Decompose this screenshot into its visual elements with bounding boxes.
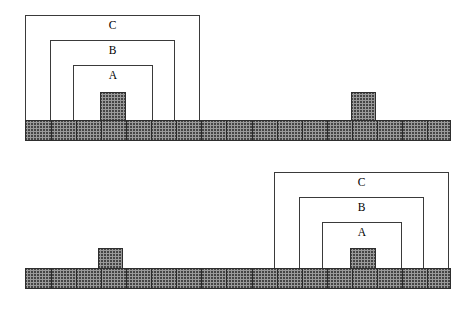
ground-divider <box>226 269 227 288</box>
ground-divider <box>76 269 77 288</box>
ground-divider <box>352 269 353 288</box>
zone-label-b: B <box>299 201 424 213</box>
ground-divider <box>427 269 428 288</box>
ground-strip <box>25 268 451 289</box>
hatched-block-left-block <box>98 248 123 269</box>
nested-zone-diagram: CBACBA <box>0 0 472 313</box>
ground-divider <box>277 269 278 288</box>
ground-divider <box>151 269 152 288</box>
ground-divider <box>51 269 52 288</box>
ground-divider <box>377 269 378 288</box>
ground-divider <box>101 269 102 288</box>
lower-configuration: CBA <box>0 0 472 313</box>
ground-divider <box>327 269 328 288</box>
ground-divider <box>176 269 177 288</box>
hatched-block-center-block <box>350 248 376 269</box>
zone-label-a: A <box>322 226 402 238</box>
ground-divider <box>302 269 303 288</box>
zone-label-c: C <box>274 176 449 188</box>
ground-divider <box>402 269 403 288</box>
ground-divider <box>126 269 127 288</box>
ground-divider <box>252 269 253 288</box>
ground-divider <box>201 269 202 288</box>
